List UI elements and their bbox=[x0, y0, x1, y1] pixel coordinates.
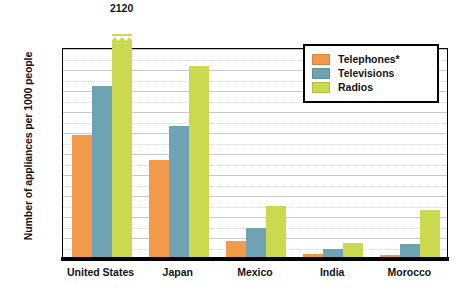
x-tick-label: Japan bbox=[139, 266, 216, 278]
bar-group bbox=[140, 49, 217, 258]
bar bbox=[400, 244, 420, 258]
chart-legend: Telephones*TelevisionsRadios bbox=[303, 44, 439, 103]
axis-break-zigzag bbox=[112, 36, 132, 45]
bar-value-label: 2120 bbox=[110, 2, 133, 14]
bar bbox=[420, 210, 440, 258]
bar bbox=[246, 228, 266, 258]
bar bbox=[92, 86, 112, 258]
legend-item[interactable]: Radios bbox=[312, 81, 430, 93]
legend-label: Televisions bbox=[338, 67, 394, 79]
bar bbox=[343, 243, 363, 258]
bar-group bbox=[217, 49, 294, 258]
bar bbox=[169, 126, 189, 258]
legend-label: Telephones* bbox=[338, 53, 400, 65]
x-tick-label: United States bbox=[62, 266, 139, 278]
x-tick-label: Morocco bbox=[371, 266, 448, 278]
bar bbox=[149, 160, 169, 258]
bar-chart-figure: Number of appliances per 1000 people 212… bbox=[0, 0, 465, 293]
y-axis-title: Number of appliances per 1000 people bbox=[22, 41, 34, 251]
bar-group: 2120 bbox=[63, 49, 140, 258]
telephones-swatch bbox=[312, 54, 330, 65]
bar bbox=[189, 66, 209, 258]
televisions-swatch bbox=[312, 68, 330, 79]
x-axis-baseline bbox=[61, 257, 449, 261]
bar bbox=[226, 241, 246, 258]
radios-swatch bbox=[312, 82, 330, 93]
legend-item[interactable]: Televisions bbox=[312, 67, 430, 79]
bar: 2120 bbox=[112, 34, 132, 258]
legend-item[interactable]: Telephones* bbox=[312, 53, 430, 65]
x-tick-label: Mexico bbox=[216, 266, 293, 278]
bar bbox=[72, 135, 92, 258]
x-tick-label: India bbox=[294, 266, 371, 278]
legend-label: Radios bbox=[338, 81, 373, 93]
bar bbox=[266, 206, 286, 259]
